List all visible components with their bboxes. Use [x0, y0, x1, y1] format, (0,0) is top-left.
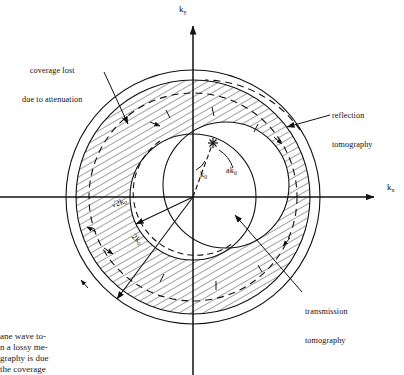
caption-line-1: ane wave to- — [0, 331, 84, 342]
reflection-tomography-label: reflection tomography — [332, 92, 373, 160]
reflection-tomography-line1: reflection — [332, 111, 373, 121]
transmission-tomography-line1: transmission — [305, 307, 348, 317]
figure-caption: ane wave to- n a lossy me- graphy is due… — [0, 331, 84, 375]
k0-label: k0 — [200, 170, 207, 180]
transmission-tomography-line2: tomography — [305, 336, 348, 346]
transmission-tomography-label: transmission tomography — [305, 288, 348, 356]
ak0-label: ak0 — [226, 166, 237, 176]
x-axis-label: kx — [387, 182, 395, 194]
coverage-lost-line2: due to attenuation — [22, 95, 82, 105]
coverage-lost-line1: coverage lost — [22, 66, 82, 76]
k-vector-tip-star — [208, 138, 218, 148]
coverage-lost-label: coverage lost due to attenuation — [22, 47, 82, 115]
caption-line-2: n a lossy me- — [0, 342, 84, 353]
y-axis-label: ky — [179, 4, 187, 16]
caption-line-4: the coverage — [0, 364, 84, 375]
reflection-tomography-line2: tomography — [332, 140, 373, 150]
caption-line-3: graphy is due — [0, 353, 84, 364]
